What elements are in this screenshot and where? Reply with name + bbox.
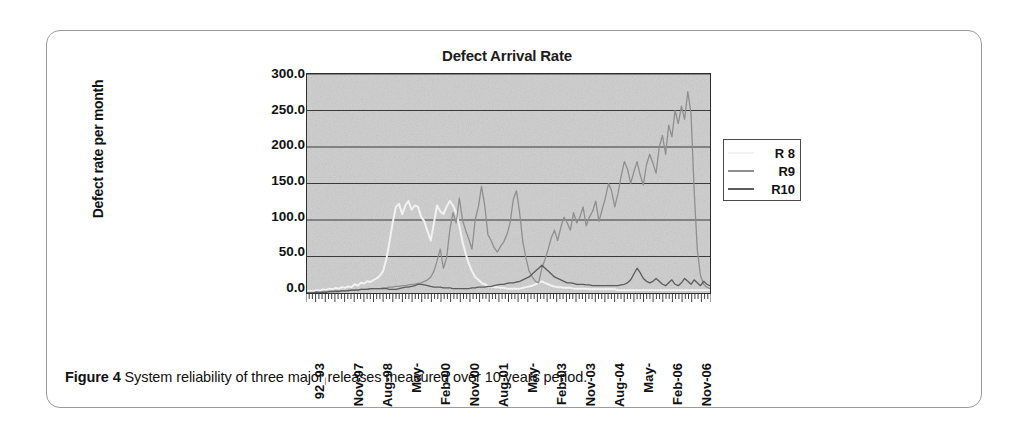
figure-caption-text: System reliability of three major releas…	[125, 369, 588, 385]
figure-caption: Figure 4 System reliability of three maj…	[65, 369, 965, 385]
y-tick-label: 200.0	[271, 137, 305, 152]
y-tick-label: 150.0	[271, 173, 305, 188]
legend-line-icon	[728, 170, 754, 172]
chart-figure: Defect Arrival Rate Defect rate per mont…	[47, 31, 983, 361]
y-tick-label: 50.0	[279, 244, 305, 259]
y-tick-label: 0.0	[286, 280, 305, 295]
legend-label: R9	[758, 165, 795, 178]
legend-item: R9	[728, 162, 795, 180]
legend-item: R10	[728, 180, 795, 198]
chart-title: Defect Arrival Rate	[297, 47, 717, 64]
legend-label: R 8	[758, 147, 795, 160]
plot-area	[306, 73, 711, 294]
legend-line-icon	[728, 152, 754, 154]
legend-label: R10	[758, 183, 795, 196]
y-tick-label: 300.0	[271, 66, 305, 81]
legend-item: R 8	[728, 144, 795, 162]
plot-svg	[307, 74, 710, 293]
chart-legend: R 8R9R10	[723, 139, 801, 201]
y-axis-label: Defect rate per month	[90, 34, 106, 264]
x-axis-tick-marks	[306, 294, 711, 303]
figure-card: Defect Arrival Rate Defect rate per mont…	[46, 30, 982, 408]
y-tick-label: 100.0	[271, 208, 305, 223]
y-axis-tick-labels: 300.0250.0200.0150.0100.050.00.0	[239, 67, 305, 293]
figure-page: Defect Arrival Rate Defect rate per mont…	[0, 0, 1027, 432]
figure-caption-label: Figure 4	[65, 369, 121, 385]
legend-line-icon	[728, 188, 754, 190]
y-tick-label: 250.0	[271, 101, 305, 116]
x-axis-tick-labels: 92_93Nov-97Aug-98May-Feb-00Nov-00Aug-01M…	[306, 305, 711, 365]
